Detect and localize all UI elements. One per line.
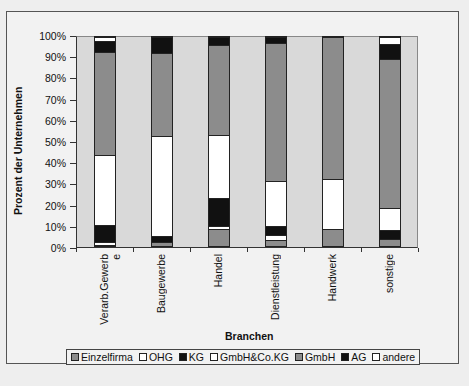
- y-tick-label: 40%: [30, 157, 66, 169]
- bar-segment-gmbh-co-kg: [152, 136, 172, 235]
- bar-segment-gmbh: [95, 52, 115, 155]
- y-tick-label: 100%: [30, 30, 66, 42]
- x-tick-label: Verarb.Gewerb e: [98, 254, 122, 325]
- legend-item: GmbH: [295, 351, 335, 363]
- y-tick: [70, 227, 76, 228]
- legend-label: andere: [382, 351, 415, 363]
- bar-segment-ag: [152, 37, 172, 53]
- plot-area: [76, 36, 418, 248]
- y-tick: [70, 78, 76, 79]
- y-tick: [70, 36, 76, 37]
- x-tick: [304, 248, 305, 252]
- bar-segment-einzelfirma: [95, 245, 115, 246]
- legend-item: Einzelfirma: [71, 351, 133, 363]
- legend-item: OHG: [139, 351, 173, 363]
- bar-segment-einzelfirma: [209, 229, 229, 246]
- y-tick: [70, 142, 76, 143]
- bar-handwerk: [322, 36, 344, 247]
- legend-label: AG: [351, 351, 366, 363]
- legend-label: GmbH: [305, 351, 335, 363]
- legend-item: KG: [179, 351, 204, 363]
- y-tick-label: 90%: [30, 51, 66, 63]
- bar-segment-ag: [209, 37, 229, 45]
- bar-handel: [208, 36, 230, 247]
- x-tick-label: Handwerk: [326, 254, 338, 301]
- bar-segment-gmbh-co-kg: [266, 181, 286, 226]
- y-tick: [70, 248, 76, 249]
- bar-dienstleistung: [265, 36, 287, 247]
- legend-swatch-icon: [210, 353, 218, 361]
- bar-segment-kg: [266, 226, 286, 234]
- y-tick-label: 10%: [30, 221, 66, 233]
- bar-segment-kg: [209, 198, 229, 226]
- y-tick: [70, 121, 76, 122]
- bar-segment-einzelfirma: [266, 240, 286, 246]
- legend-item: GmbH&Co.KG: [210, 351, 289, 363]
- bar-segment-gmbh: [152, 53, 172, 137]
- bar-segment-kg: [380, 230, 400, 238]
- y-tick-label: 70%: [30, 94, 66, 106]
- y-tick-label: 50%: [30, 136, 66, 148]
- y-tick-label: 0%: [30, 242, 66, 254]
- bar-segment-einzelfirma: [323, 229, 343, 246]
- bar-segment-gmbh: [266, 43, 286, 181]
- bar-segment-ag: [380, 44, 400, 59]
- bar-segment-gmbh-co-kg: [95, 155, 115, 225]
- y-tick-label: 20%: [30, 200, 66, 212]
- bar-segment-kg: [95, 225, 115, 242]
- y-tick: [70, 184, 76, 185]
- y-axis-title: Prozent der Unternehmen: [12, 87, 24, 215]
- legend-swatch-icon: [341, 353, 349, 361]
- bar-segment-ag: [95, 41, 115, 51]
- y-tick: [70, 206, 76, 207]
- bar-segment-einzelfirma: [380, 239, 400, 246]
- x-tick: [133, 248, 134, 252]
- y-tick-label: 80%: [30, 72, 66, 84]
- legend-label: KG: [189, 351, 204, 363]
- bar-segment-andere: [380, 37, 400, 44]
- legend-item: AG: [341, 351, 366, 363]
- legend-swatch-icon: [139, 353, 147, 361]
- bar-verarb-gewerbe: [94, 36, 116, 247]
- y-tick-label: 30%: [30, 178, 66, 190]
- x-axis-title: Branchen: [225, 330, 273, 342]
- x-tick: [361, 248, 362, 252]
- bar-segment-gmbh-co-kg: [380, 208, 400, 230]
- legend-swatch-icon: [295, 353, 303, 361]
- x-tick: [247, 248, 248, 252]
- y-tick: [70, 100, 76, 101]
- x-tick-label: sonstige: [383, 254, 395, 293]
- legend-swatch-icon: [372, 353, 380, 361]
- bar-baugewerbe: [151, 36, 173, 247]
- legend-label: GmbH&Co.KG: [220, 351, 289, 363]
- bar-sonstige: [379, 36, 401, 247]
- x-tick-label: Dienstleistung: [269, 254, 281, 320]
- bar-segment-gmbh-co-kg: [209, 135, 229, 198]
- x-tick: [418, 248, 419, 252]
- y-tick: [70, 57, 76, 58]
- bar-segment-gmbh: [323, 37, 343, 179]
- legend-label: OHG: [149, 351, 173, 363]
- x-tick-label: Handel: [212, 254, 224, 287]
- legend: EinzelfirmaOHGKGGmbH&Co.KGGmbHAGandere: [66, 349, 420, 365]
- bar-segment-gmbh: [380, 59, 400, 208]
- x-tick: [76, 248, 77, 252]
- y-tick: [70, 163, 76, 164]
- legend-swatch-icon: [71, 353, 79, 361]
- legend-swatch-icon: [179, 353, 187, 361]
- bar-segment-gmbh-co-kg: [323, 179, 343, 229]
- x-tick: [190, 248, 191, 252]
- bar-segment-gmbh: [209, 45, 229, 135]
- bar-segment-einzelfirma: [152, 242, 172, 246]
- legend-label: Einzelfirma: [81, 351, 133, 363]
- y-tick-label: 60%: [30, 115, 66, 127]
- legend-item: andere: [372, 351, 415, 363]
- x-tick-label: Baugewerbe: [155, 254, 167, 313]
